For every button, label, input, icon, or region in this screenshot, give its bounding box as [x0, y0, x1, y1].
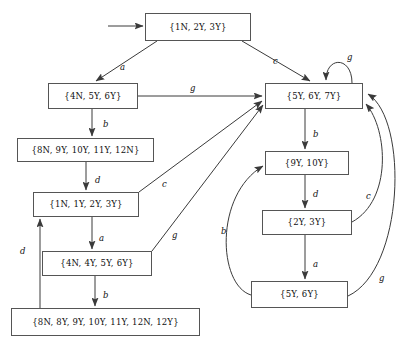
edge-label-n0-n1: a: [120, 63, 125, 72]
edge-label-n9-n7: b: [221, 227, 226, 236]
edge-n3-n6: [139, 101, 262, 192]
state-label: {1N, 2Y, 3Y}: [169, 23, 226, 32]
edge-n6-self-loop: [326, 62, 352, 83]
edge-n9-n6: [348, 94, 395, 296]
edge-n8-n6: [352, 104, 382, 222]
state-label: {2Y, 3Y}: [288, 218, 327, 227]
state-node-n1[interactable]: {4N, 5Y, 6Y}: [48, 83, 138, 109]
edge-label-n6-self: g: [347, 53, 352, 62]
edge-label-n7-n8: d: [313, 190, 318, 199]
edge-label-n5-n3: d: [20, 247, 25, 256]
edge-label-n3-n4: a: [99, 234, 104, 243]
state-node-n0[interactable]: {1N, 2Y, 3Y}: [145, 13, 251, 41]
edge-label-n8-n6: c: [366, 192, 371, 201]
state-node-n6[interactable]: {5Y, 6Y, 7Y}: [265, 83, 363, 109]
automaton-diagram: {1N, 2Y, 3Y} {4N, 5Y, 6Y} {8N, 9Y, 10Y, …: [0, 0, 414, 355]
edge-label-n0-n6: c: [273, 57, 278, 66]
edge-label-n1-n6: g: [190, 84, 195, 93]
edge-label-n8-n9: a: [313, 260, 318, 269]
state-label: {1N, 1Y, 2Y, 3Y}: [49, 200, 122, 209]
edge-n9-n7: [226, 166, 263, 295]
state-label: {8N, 9Y, 10Y, 11Y, 12N}: [31, 146, 139, 155]
edge-n4-n6: [152, 105, 263, 251]
edge-label-n4-n5: b: [103, 291, 108, 300]
edge-n0-n1: [96, 41, 157, 81]
edge-label-n2-n3: d: [95, 176, 100, 185]
state-node-n8[interactable]: {2Y, 3Y}: [262, 210, 352, 235]
state-label: {4N, 4Y, 5Y, 6Y}: [60, 259, 133, 268]
state-node-n2[interactable]: {8N, 9Y, 10Y, 11Y, 12N}: [17, 138, 154, 162]
edge-label-n1-n2: b: [103, 120, 108, 129]
edge-label-n3-n6: c: [162, 180, 167, 189]
state-label: {8N, 8Y, 9Y, 10Y, 11Y, 12N, 12Y}: [32, 318, 179, 327]
state-label: {5Y, 6Y, 7Y}: [287, 92, 342, 101]
state-node-n4[interactable]: {4N, 4Y, 5Y, 6Y}: [42, 251, 152, 276]
state-node-n5[interactable]: {8N, 8Y, 9Y, 10Y, 11Y, 12N, 12Y}: [11, 308, 200, 336]
state-node-n9[interactable]: {5Y, 6Y}: [251, 281, 348, 308]
state-label: {5Y, 6Y}: [280, 290, 319, 299]
state-label: {9Y, 10Y}: [285, 159, 329, 168]
state-node-n3[interactable]: {1N, 1Y, 2Y, 3Y}: [33, 192, 139, 217]
edge-label-n4-n6: g: [172, 231, 177, 240]
edge-label-n6-n7: b: [313, 130, 318, 139]
state-label: {4N, 5Y, 6Y}: [64, 92, 121, 101]
state-node-n7[interactable]: {9Y, 10Y}: [265, 151, 349, 175]
edge-label-n9-n6: g: [379, 274, 384, 283]
